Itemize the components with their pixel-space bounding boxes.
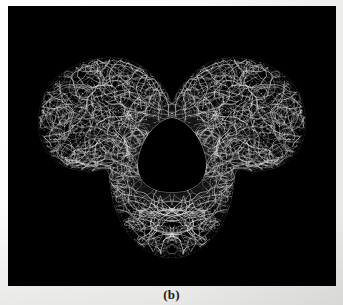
figure-image-panel [8,6,336,286]
figure-container: (b) [0,0,343,305]
figure-caption: (b) [0,288,343,302]
molecular-mesh-rendering [8,6,336,286]
